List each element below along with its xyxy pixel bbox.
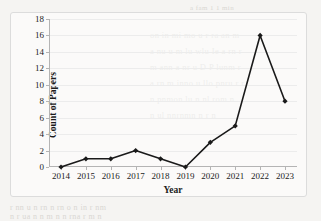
y-tick-label: 14 bbox=[35, 47, 44, 57]
y-tick-label: 16 bbox=[35, 30, 44, 40]
x-tick-label: 2023 bbox=[276, 171, 294, 181]
plot-area: 024681012141618 201420152016201720182019… bbox=[49, 19, 297, 167]
y-tick-label: 12 bbox=[35, 63, 44, 73]
x-axis-title: Year bbox=[49, 185, 297, 195]
chart-frame: Count of Papers 024681012141618 20142015… bbox=[10, 12, 307, 197]
data-point-marker bbox=[282, 99, 287, 104]
x-tick-label: 2019 bbox=[176, 171, 194, 181]
data-point-marker bbox=[58, 164, 63, 169]
y-tick-label: 8 bbox=[40, 96, 45, 106]
showthrough-line: n r ua n n m n n rna r m n bbox=[10, 212, 102, 221]
x-tick-label: 2021 bbox=[226, 171, 244, 181]
data-point-marker bbox=[158, 156, 163, 161]
y-tick-label: 6 bbox=[40, 113, 45, 123]
y-tick-label: 0 bbox=[40, 162, 45, 172]
x-tick-mark bbox=[136, 167, 137, 170]
x-tick-mark bbox=[86, 167, 87, 170]
x-tick-mark bbox=[161, 167, 162, 170]
x-tick-mark bbox=[111, 167, 112, 170]
showthrough-line: r nn u n rn n rn o n in r nm bbox=[10, 203, 106, 212]
x-tick-mark bbox=[210, 167, 211, 170]
x-tick-label: 2018 bbox=[152, 171, 170, 181]
y-tick-label: 18 bbox=[35, 14, 44, 24]
x-tick-label: 2015 bbox=[77, 171, 95, 181]
x-tick-mark bbox=[235, 167, 236, 170]
data-point-marker bbox=[83, 156, 88, 161]
y-tick-label: 2 bbox=[40, 146, 45, 156]
data-point-marker bbox=[133, 148, 138, 153]
y-tick-label: 4 bbox=[40, 129, 45, 139]
showthrough-line: a fam 1 1 min bbox=[190, 4, 234, 12]
series-line bbox=[61, 35, 285, 167]
x-tick-mark bbox=[285, 167, 286, 170]
x-tick-mark bbox=[260, 167, 261, 170]
y-tick-mark bbox=[46, 167, 49, 168]
x-tick-label: 2022 bbox=[251, 171, 269, 181]
x-tick-label: 2020 bbox=[201, 171, 219, 181]
data-point-marker bbox=[108, 156, 113, 161]
x-tick-label: 2016 bbox=[102, 171, 120, 181]
x-tick-label: 2017 bbox=[127, 171, 145, 181]
data-point-marker bbox=[258, 33, 263, 38]
data-series-count-of-papers bbox=[49, 19, 297, 167]
y-tick-label: 10 bbox=[35, 80, 44, 90]
x-tick-label: 2014 bbox=[52, 171, 70, 181]
